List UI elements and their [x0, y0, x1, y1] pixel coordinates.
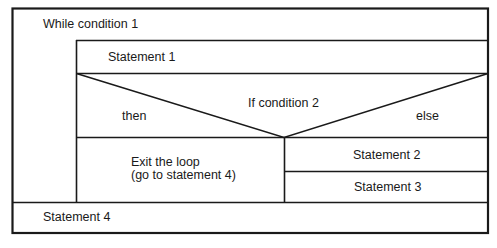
if-condition-label: If condition 2 — [248, 96, 319, 110]
then-branch-line2: (go to statement 4) — [131, 168, 236, 182]
statement4-label: Statement 4 — [43, 210, 110, 224]
statement3-label: Statement 3 — [354, 180, 421, 194]
then-branch-line1: Exit the loop — [131, 155, 200, 169]
statement2-label: Statement 2 — [353, 148, 420, 162]
while-condition-label: While condition 1 — [43, 17, 138, 31]
nassi-shneiderman-diagram: While condition 1 Statement 1 If conditi… — [0, 0, 497, 248]
else-label: else — [416, 109, 439, 123]
then-label: then — [122, 109, 146, 123]
statement1-label: Statement 1 — [108, 50, 175, 64]
